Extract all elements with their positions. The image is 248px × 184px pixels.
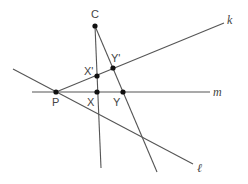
point-y-prime — [110, 65, 115, 70]
point-y — [120, 89, 125, 94]
label-p: P — [52, 96, 59, 108]
geometry-figure: C P X Y X' Y' k m ℓ — [0, 0, 248, 184]
label-x: X — [87, 96, 95, 108]
diagram: C P X Y X' Y' k m ℓ — [0, 0, 248, 184]
line-l — [13, 69, 193, 164]
line-cx — [95, 26, 101, 168]
point-x-prime — [94, 73, 99, 78]
line-cy — [95, 26, 157, 172]
label-x-prime: X' — [84, 65, 93, 77]
label-c: C — [91, 8, 99, 20]
label-y: Y — [113, 96, 121, 108]
label-line-m: m — [213, 85, 222, 99]
point-c — [92, 23, 97, 28]
label-line-l: ℓ — [197, 161, 202, 175]
line-k — [56, 23, 224, 92]
point-p — [53, 89, 58, 94]
point-x — [94, 89, 99, 94]
label-y-prime: Y' — [111, 52, 120, 64]
label-line-k: k — [227, 13, 233, 27]
